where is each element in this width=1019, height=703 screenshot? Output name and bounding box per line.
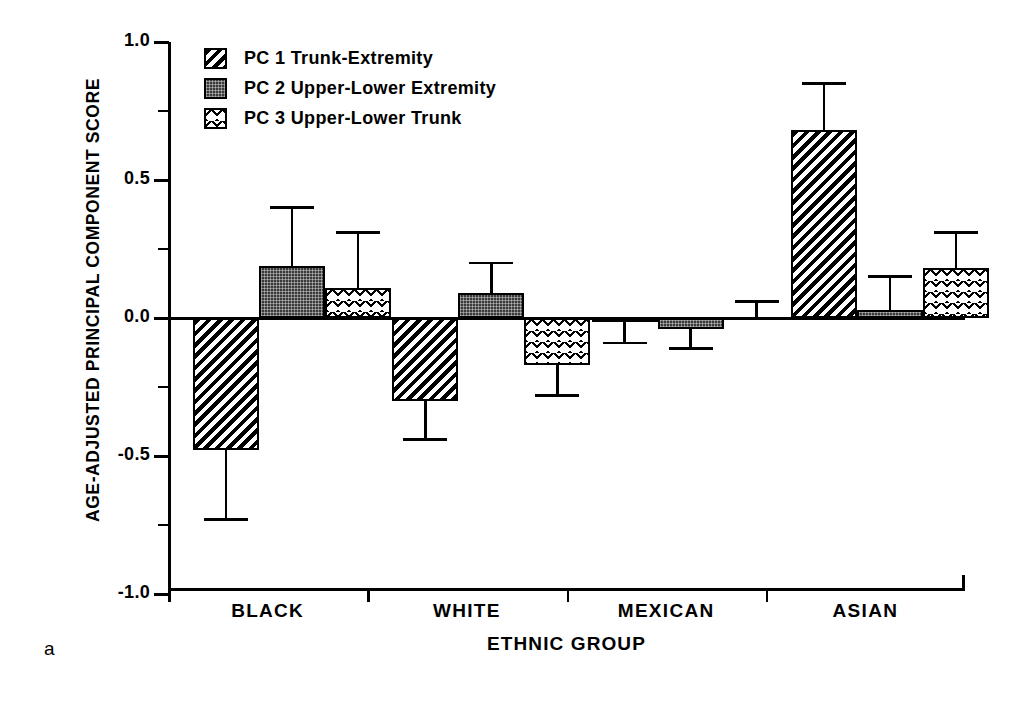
x-category-label: BLACK (168, 600, 367, 622)
error-bar-stem (889, 277, 892, 310)
error-bar-stem (556, 365, 559, 395)
error-bar-stem (490, 263, 493, 293)
x-category-label: ASIAN (766, 600, 965, 622)
error-bar-stem (424, 401, 427, 440)
error-bar-stem (755, 301, 758, 318)
bar (325, 288, 391, 318)
error-bar-stem (357, 232, 360, 287)
bar (791, 130, 857, 318)
error-bar-cap (802, 82, 846, 85)
error-bar-stem (955, 232, 958, 268)
panel-letter: a (44, 638, 55, 660)
bar (392, 318, 458, 401)
y-tick-minor (158, 524, 169, 527)
y-tick-label: -1.0 (88, 582, 150, 603)
error-bar-stem (225, 450, 228, 519)
legend-item: PC 1 Trunk-Extremity (204, 44, 496, 72)
x-axis-title: ETHNIC GROUP (168, 633, 965, 655)
error-bar-stem (623, 321, 626, 343)
legend: PC 1 Trunk-ExtremityPC 2 Upper-Lower Ext… (204, 44, 496, 134)
y-axis-title: AGE-ADJUSTED PRINCIPAL COMPONENT SCORE (78, 0, 108, 600)
figure-panel: AGE-ADJUSTED PRINCIPAL COMPONENT SCORE 1… (0, 0, 1019, 703)
error-bar-stem (823, 83, 826, 130)
bar (857, 310, 923, 318)
bar (193, 318, 259, 450)
legend-item: PC 2 Upper-Lower Extremity (204, 74, 496, 102)
y-tick-major (154, 41, 169, 44)
legend-item-label: PC 3 Upper-Lower Trunk (244, 108, 462, 129)
x-axis-end-tick (962, 575, 965, 591)
bar (524, 318, 590, 365)
dark-stipple-icon (204, 78, 227, 99)
legend-item-label: PC 1 Trunk-Extremity (244, 48, 433, 69)
error-bar-cap (336, 231, 380, 234)
y-tick-label: 0.0 (88, 306, 150, 327)
bar (458, 293, 524, 318)
legend-item-label: PC 2 Upper-Lower Extremity (244, 78, 496, 99)
y-tick-major (154, 179, 169, 182)
bar (923, 268, 989, 318)
y-tick-label: -0.5 (88, 444, 150, 465)
y-tick-label: 0.5 (88, 168, 150, 189)
y-tick-minor (158, 386, 169, 389)
bar (259, 266, 325, 318)
error-bar-cap (735, 300, 779, 303)
x-category-label: MEXICAN (567, 600, 766, 622)
y-tick-major (154, 455, 169, 458)
y-tick-minor (158, 248, 169, 251)
error-bar-stem (291, 208, 294, 266)
y-tick-major (154, 593, 169, 596)
error-bar-cap (535, 394, 579, 397)
error-bar-cap (270, 206, 314, 209)
y-tick-minor (158, 110, 169, 113)
error-bar-cap (868, 275, 912, 278)
error-bar-stem (689, 329, 692, 348)
bar (658, 318, 724, 329)
error-bar-cap (603, 342, 647, 345)
y-tick-label: 1.0 (88, 30, 150, 51)
error-bar-cap (669, 347, 713, 350)
error-bar-cap (469, 262, 513, 265)
y-tick-major (154, 317, 169, 320)
error-bar-cap (934, 231, 978, 234)
light-crosshatch-icon (204, 108, 227, 129)
legend-item: PC 3 Upper-Lower Trunk (204, 104, 496, 132)
error-bar-cap (403, 438, 447, 441)
x-category-label: WHITE (367, 600, 566, 622)
diagonal-hatch-icon (204, 48, 227, 69)
error-bar-cap (204, 518, 248, 521)
